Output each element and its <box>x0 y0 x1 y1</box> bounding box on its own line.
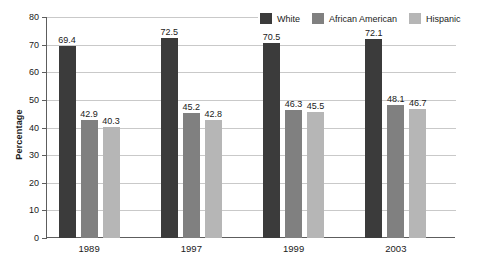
x-axis-labels: 1989199719992003 <box>46 243 455 259</box>
bar[interactable]: 69.4 <box>59 46 76 238</box>
legend-item[interactable]: African American <box>312 13 397 24</box>
x-axis-label: 2003 <box>385 243 406 254</box>
bar-value-label: 45.2 <box>183 102 201 112</box>
bar[interactable]: 42.9 <box>81 120 98 239</box>
y-axis-tick-label: 80 <box>29 12 39 22</box>
legend-label: African American <box>329 14 397 24</box>
y-axis-tick-label: 70 <box>29 40 39 50</box>
legend-label: Hispanic <box>426 14 461 24</box>
bar[interactable]: 45.5 <box>307 112 324 238</box>
bar-value-label: 72.1 <box>365 28 383 38</box>
bar[interactable]: 46.3 <box>285 110 302 238</box>
y-axis-tick-label: 60 <box>29 67 39 77</box>
y-axis-tick-label: 40 <box>29 123 39 133</box>
bar-value-label: 42.9 <box>80 109 98 119</box>
x-axis-label: 1989 <box>79 243 100 254</box>
bar-value-label: 48.1 <box>387 94 405 104</box>
x-axis-label: 1999 <box>283 243 304 254</box>
bar-group: 72.545.242.8 <box>161 17 222 238</box>
bar-value-label: 45.5 <box>307 101 325 111</box>
bar-group: 72.148.146.7 <box>365 17 426 238</box>
bar[interactable]: 72.1 <box>365 39 382 238</box>
bar-group: 69.442.940.3 <box>59 17 120 238</box>
y-axis-tick-label: 30 <box>29 150 39 160</box>
bar[interactable]: 46.7 <box>409 109 426 238</box>
bar-value-label: 69.4 <box>58 35 76 45</box>
legend-swatch-icon <box>409 13 421 24</box>
bar[interactable]: 40.3 <box>103 127 120 238</box>
legend-swatch-icon <box>260 13 272 24</box>
bar[interactable]: 48.1 <box>387 105 404 238</box>
legend-label: White <box>277 14 300 24</box>
y-axis-tick-label: 0 <box>34 233 39 243</box>
bar-value-label: 46.3 <box>285 99 303 109</box>
bars-layer: 69.442.940.372.545.242.870.546.345.572.1… <box>46 17 455 238</box>
y-axis-tick-label: 50 <box>29 95 39 105</box>
chart-legend: WhiteAfrican AmericanHispanic <box>258 11 463 26</box>
bar-value-label: 70.5 <box>263 32 281 42</box>
bar-value-label: 72.5 <box>161 27 179 37</box>
legend-item[interactable]: Hispanic <box>409 13 461 24</box>
bar[interactable]: 42.8 <box>205 120 222 238</box>
bar-group: 70.546.345.5 <box>263 17 324 238</box>
gridline <box>47 238 456 239</box>
bar-chart: Percentage 01020304050607080 69.442.940.… <box>0 0 482 269</box>
legend-item[interactable]: White <box>260 13 300 24</box>
bar[interactable]: 72.5 <box>161 38 178 238</box>
x-axis-label: 1997 <box>181 243 202 254</box>
bar-value-label: 40.3 <box>102 116 120 126</box>
legend-swatch-icon <box>312 13 324 24</box>
bar-value-label: 46.7 <box>409 98 427 108</box>
bar[interactable]: 45.2 <box>183 113 200 238</box>
y-axis-tick <box>42 238 47 239</box>
y-axis-tick-label: 20 <box>29 178 39 188</box>
bar[interactable]: 70.5 <box>263 43 280 238</box>
bar-value-label: 42.8 <box>205 109 223 119</box>
y-axis-title: Percentage <box>14 0 28 269</box>
y-axis-tick-label: 10 <box>29 205 39 215</box>
